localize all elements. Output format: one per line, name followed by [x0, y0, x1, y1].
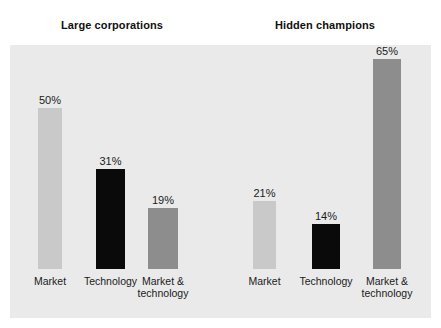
- bar-category-label: Technology: [299, 275, 352, 287]
- bar-large-corporations-market-technology: 19% Market & technology: [148, 208, 178, 269]
- bar-category-label: Market & technology: [362, 275, 413, 299]
- bar-category-label: Market: [248, 275, 280, 287]
- bar-category-label: Technology: [84, 275, 137, 287]
- bar-large-corporations-market: 50% Market: [38, 108, 62, 270]
- chart-figure: Large corporations Hidden champions 50% …: [0, 0, 441, 328]
- bar-value-label: 31%: [99, 155, 121, 167]
- bar-value-label: 21%: [253, 187, 275, 199]
- bar-hidden-champions-market-technology: 65% Market & technology: [373, 59, 401, 269]
- bar-value-label: 65%: [376, 45, 398, 57]
- bar-value-label: 19%: [152, 194, 174, 206]
- bar-hidden-champions-technology: 14% Technology: [312, 224, 340, 269]
- bar-value-label: 50%: [39, 94, 61, 106]
- bar-value-label: 14%: [315, 210, 337, 222]
- bar-category-label: Market & technology: [138, 275, 189, 299]
- group-title-large-corporations: Large corporations: [61, 19, 163, 31]
- bar-category-label: Market: [34, 275, 66, 287]
- bar-large-corporations-technology: 31% Technology: [96, 169, 125, 269]
- group-title-hidden-champions: Hidden champions: [275, 19, 375, 31]
- bar-hidden-champions-market: 21% Market: [253, 201, 276, 269]
